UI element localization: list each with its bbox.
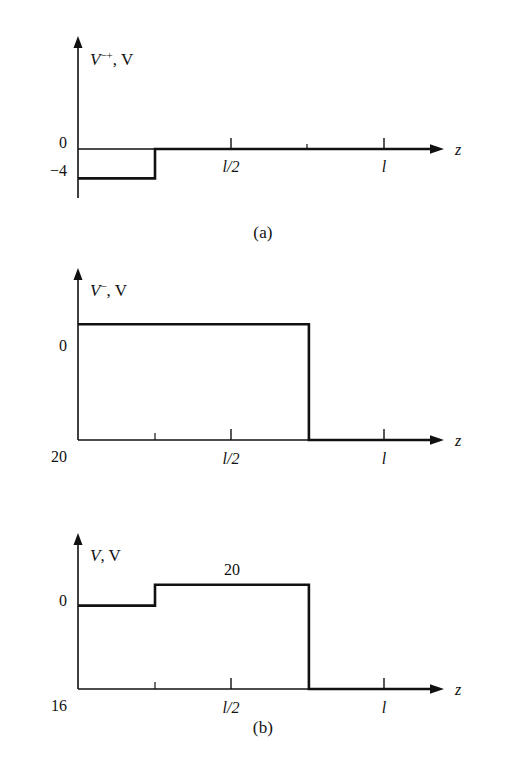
- figure-container: V−+, V 0 −4 l/2 l z (a) V−,: [0, 0, 526, 758]
- y-label-20-b: 0: [59, 337, 67, 354]
- plot-panel-c: V, V 0 16 20 l/2 l z (c): [0, 513, 526, 758]
- x-label-half-l-c: l/2: [223, 699, 240, 716]
- x-axis-arrowhead-b: [430, 435, 444, 445]
- y-axis-arrowhead-b: [74, 268, 83, 280]
- waveform-trace-b: [78, 324, 432, 440]
- y-axis-title-b-unit: , V: [107, 281, 128, 300]
- plot-panel-a: V−+, V 0 −4 l/2 l z (a): [0, 18, 526, 248]
- y-label-zero-a: 0: [59, 134, 67, 151]
- y-label-zero-c: 16: [51, 697, 67, 714]
- x-axis-title-a: z: [454, 141, 462, 158]
- y-axis-arrowhead-a: [74, 36, 83, 48]
- x-label-half-l-a: l/2: [223, 158, 240, 175]
- plot-c-svg: V, V 0 16 20 l/2 l z: [0, 513, 526, 728]
- x-label-l-b: l: [382, 450, 387, 467]
- waveform-trace-a: [78, 149, 432, 178]
- y-label-minus4-a: −4: [50, 162, 67, 179]
- x-axis-arrowhead-a: [430, 144, 444, 154]
- y-label-16-c: 0: [59, 592, 67, 609]
- x-axis-title-c: z: [454, 681, 462, 698]
- waveform-trace-c: [78, 585, 432, 689]
- y-axis-arrowhead-c: [74, 533, 83, 545]
- plot-panel-b: V−, V 0 20 l/2 l z (b): [0, 248, 526, 513]
- y-axis-title-b: V−, V: [90, 280, 128, 300]
- x-label-l-a: l: [382, 158, 387, 175]
- y-axis-title-c: V, V: [90, 546, 122, 565]
- annotation-20-c: 20: [224, 561, 240, 578]
- x-axis-arrowhead-c: [430, 684, 444, 694]
- y-axis-title-c-unit: , V: [100, 546, 121, 565]
- x-label-half-l-b: l/2: [223, 450, 240, 467]
- panel-caption-a: (a): [0, 223, 526, 243]
- y-axis-title-a: V−+, V: [90, 49, 134, 69]
- plot-b-svg: V−, V 0 20 l/2 l z: [0, 248, 526, 478]
- x-axis-title-b: z: [454, 432, 462, 449]
- plot-a-svg: V−+, V 0 −4 l/2 l z: [0, 18, 526, 218]
- y-axis-title-a-unit: , V: [113, 50, 134, 69]
- y-label-zero-b: 20: [51, 448, 67, 465]
- x-label-l-c: l: [382, 699, 387, 716]
- y-axis-title-a-superscript: −+: [100, 49, 112, 61]
